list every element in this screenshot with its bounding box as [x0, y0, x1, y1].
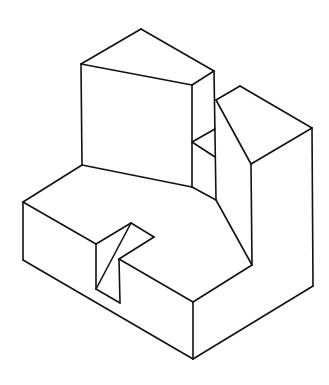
edge-tall-block-top: [81, 29, 141, 64]
edge-notch-step: [192, 142, 215, 157]
edge-slot: [131, 223, 154, 237]
edge-right-block-top: [251, 128, 312, 164]
edge-slot: [119, 259, 120, 303]
edge-right-block-front: [251, 164, 252, 265]
edge-tall-block-top: [141, 29, 214, 71]
edge-right-block-top: [216, 100, 251, 164]
edge-base-left-side: [23, 260, 193, 359]
edge-tall-block-top: [192, 71, 214, 85]
edge-tall-block-front: [81, 64, 82, 165]
edge-base-top: [192, 187, 216, 200]
edge-base-top: [23, 202, 96, 244]
edge-slot: [119, 237, 154, 259]
edge-right-block-side: [312, 128, 313, 286]
edge-base-front: [193, 265, 252, 302]
edge-tall-block-front: [82, 165, 192, 187]
isometric-object-drawing: [0, 0, 329, 385]
edge-base-front: [119, 259, 193, 302]
edge-right-block-slope: [216, 200, 252, 265]
edge-tall-block-top: [81, 64, 192, 85]
edge-tall-block-side: [214, 71, 216, 200]
edge-base-right-side: [193, 286, 313, 359]
edge-base-top: [23, 165, 82, 202]
edge-right-block-top: [216, 86, 240, 100]
edge-notch-step: [192, 129, 215, 142]
edge-right-block-top: [240, 86, 312, 128]
edge-slot: [96, 289, 120, 303]
